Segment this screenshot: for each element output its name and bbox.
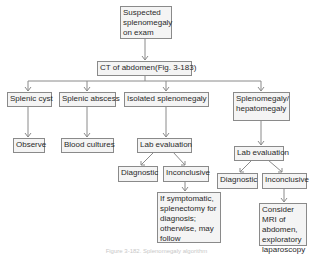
node-consider-mri: Consider MRI of abdomen, exploratory lap… (259, 203, 307, 246)
node-ct-abdomen: CT of abdomen(Fig. 3-183) (97, 61, 192, 76)
node-blood-cultures: Blood cultures (61, 138, 114, 153)
node-inconclusive-right: Inconclusive (262, 173, 307, 189)
node-suspected-splenomegaly: Suspected splenomegaly on exam (120, 6, 172, 39)
node-symptomatic-splenectomy: If symptomatic, splenectomy for diagnosi… (157, 192, 221, 243)
node-splenic-abscess: Splenic abscess (59, 92, 116, 107)
node-isolated-splenomegaly: Isolated splenomegaly (124, 92, 209, 107)
node-splenomegaly-hepatomegaly: Splenomegaly/ hepatomegaly (233, 92, 290, 121)
node-observe: Observe (13, 138, 45, 153)
node-lab-evaluation-left: Lab evaluation (137, 138, 192, 153)
figure-caption: Figure 3-182. Splenomegaly algorithm (0, 248, 313, 254)
node-splenic-cyst: Splenic cyst (7, 92, 52, 107)
node-diagnostic-right: Diagnostic (217, 173, 258, 189)
node-lab-evaluation-right: Lab evaluation (234, 146, 284, 161)
node-inconclusive-left: Inconclusive (163, 166, 209, 182)
node-diagnostic-left: Diagnostic (118, 166, 158, 182)
